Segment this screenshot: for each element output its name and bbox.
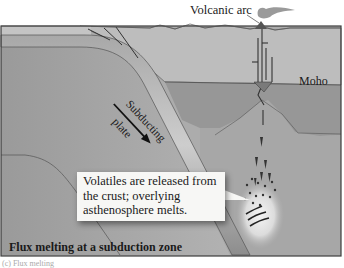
figure-title: Flux melting at a subduction zone — [9, 240, 182, 255]
volatiles-callout: Volatiles are released from the crust; o… — [77, 172, 225, 221]
volcanic-arc-label: Volcanic arc — [190, 3, 252, 18]
moho-label: Moho — [299, 74, 328, 89]
oceanic-lithosphere-top — [1, 26, 91, 36]
figure-id: (c) Flux melting — [2, 259, 54, 268]
top-margin — [0, 0, 344, 25]
callout-text: Volatiles are released from the crust; o… — [83, 174, 219, 218]
melt-zone — [236, 181, 284, 249]
